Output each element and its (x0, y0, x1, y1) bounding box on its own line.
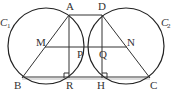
label-c2-subscript: 2 (167, 22, 171, 30)
label-c1-subscript: 1 (7, 22, 11, 30)
label-n: N (127, 36, 135, 48)
label-d: D (98, 0, 106, 12)
label-m: M (36, 36, 46, 48)
label-h: H (97, 79, 105, 91)
label-p: P (77, 48, 83, 60)
label-c: C (150, 79, 157, 91)
label-a: A (66, 0, 74, 12)
label-b: B (14, 79, 21, 91)
label-q: Q (99, 48, 107, 60)
geometry-diagram: A D B C M N P Q R H C 1 C 2 (0, 0, 172, 91)
label-r: R (66, 79, 74, 91)
